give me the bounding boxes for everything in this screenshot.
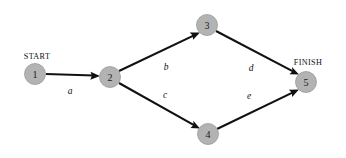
edge-d-label: d	[249, 63, 254, 73]
edge-e-line	[217, 92, 293, 129]
edge-e[interactable]: e	[217, 90, 299, 130]
node-4[interactable]: 4	[198, 124, 219, 145]
finish-caption: FINISH	[294, 58, 323, 67]
edge-e-label: e	[247, 91, 251, 101]
edge-b-line	[119, 35, 194, 71]
node-3[interactable]: 3	[197, 15, 218, 36]
edge-b-label: b	[164, 62, 169, 72]
start-caption: START	[24, 52, 51, 61]
edge-b[interactable]: b	[119, 33, 200, 73]
node-5[interactable]: 5	[296, 72, 317, 93]
edge-c-line	[119, 83, 194, 125]
node-2[interactable]: 2	[100, 67, 121, 88]
edge-group: a b c d e	[46, 31, 299, 129]
node-2-label: 2	[108, 72, 113, 83]
edge-c[interactable]: c	[119, 83, 200, 129]
node-group: 1 2 3 4 5	[25, 15, 317, 145]
node-1-label: 1	[33, 69, 38, 80]
network-diagram-canvas: a b c d e	[0, 0, 346, 158]
network-diagram: a b c d e	[0, 0, 346, 158]
edge-a-line	[46, 74, 94, 76]
node-4-label: 4	[206, 129, 211, 140]
node-5-label: 5	[304, 77, 309, 88]
node-3-label: 3	[205, 20, 210, 31]
terminal-caption-group: START FINISH	[24, 52, 323, 67]
edge-a-label: a	[68, 86, 73, 96]
edge-d[interactable]: d	[216, 31, 299, 75]
edge-c-label: c	[163, 90, 168, 100]
node-1[interactable]: 1	[25, 64, 46, 85]
edge-d-line	[216, 31, 293, 71]
edge-a[interactable]: a	[46, 72, 100, 96]
